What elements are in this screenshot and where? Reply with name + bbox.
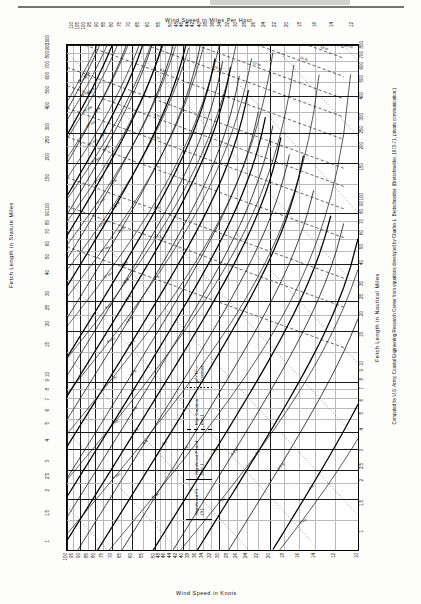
left-axis-tick-label: 100 bbox=[46, 203, 51, 210]
top-axis-tick-label: 85 bbox=[102, 22, 107, 27]
left-axis-tick-label: 90 bbox=[46, 211, 51, 216]
curve-value-label: 20 hr bbox=[344, 45, 354, 50]
top-axis-tick-label: 30 bbox=[234, 22, 239, 27]
left-axis-tick-label: 300 bbox=[46, 123, 51, 130]
bottom-axis-tick-label: 16 bbox=[296, 553, 301, 558]
top-axis-tick-label: 95 bbox=[88, 22, 93, 27]
left-axis-tick-label: 2.5 bbox=[46, 473, 51, 479]
top-axis-tick-label: 90 bbox=[95, 22, 100, 27]
left-axis-tick-label: 600 bbox=[46, 72, 51, 79]
top-axis-tick-label: 38 bbox=[204, 22, 209, 27]
left-axis-tick-label: 2 bbox=[46, 489, 51, 491]
bottom-axis-tick-label: 65 bbox=[118, 553, 123, 558]
bottom-axis-tick-label: 100 bbox=[64, 553, 69, 560]
right-axis-tick-label: 500 bbox=[360, 75, 365, 82]
bottom-axis-tick-label: 18 bbox=[281, 553, 286, 558]
bottom-axis-tick-label: 26 bbox=[234, 553, 239, 558]
top-axis-tick-label: 36 bbox=[211, 22, 216, 27]
bottom-axis-tick-label: 22 bbox=[255, 553, 260, 558]
right-axis-tick-label: 80 bbox=[360, 209, 365, 214]
top-axis-tick-label: 12 bbox=[350, 22, 355, 27]
left-axis-title: Fetch Length in Statute Miles bbox=[8, 148, 14, 288]
curve-value-label: 16 ft bbox=[124, 294, 133, 303]
left-axis-tick-label: 5 bbox=[46, 422, 51, 424]
figure-page: Wind Speed in Miles Per Hour Wind Speed … bbox=[0, 0, 421, 604]
bottom-axis-tick-label: 44 bbox=[168, 553, 173, 558]
right-axis-tick-label: 400 bbox=[360, 92, 365, 99]
bottom-axis-tick-label: 28 bbox=[225, 553, 230, 558]
bottom-axis-tick-label: 75 bbox=[100, 553, 105, 558]
curve-value-label: 15 hr bbox=[299, 56, 309, 62]
left-axis-tick-label: 700 bbox=[46, 61, 51, 68]
right-axis-tick-label: 600 bbox=[360, 62, 365, 69]
right-axis-tick-label: 25 bbox=[360, 294, 365, 299]
top-axis-tick-label: 75 bbox=[118, 22, 123, 27]
bottom-axis-tick-label: 24 bbox=[244, 553, 249, 558]
right-axis-tick-label: 40 bbox=[360, 260, 365, 265]
bottom-axis-tick-label: 42 bbox=[174, 553, 179, 558]
curve-value-label: 7 sec bbox=[109, 374, 119, 382]
left-axis-tick-label: 60 bbox=[46, 241, 51, 246]
left-axis-tick-label: 7 bbox=[46, 398, 51, 400]
left-axis-tick-label: 150 bbox=[46, 174, 51, 181]
top-axis-tick-label: 46 bbox=[180, 22, 185, 27]
left-axis-tick-label: 200 bbox=[46, 153, 51, 160]
bottom-axis-tick-label: 34 bbox=[200, 553, 205, 558]
bottom-axis-tick-label: 12 bbox=[332, 553, 337, 558]
top-axis-tick-label: 20 bbox=[285, 22, 290, 27]
gt2-f2-constant-curve bbox=[67, 507, 109, 550]
bottom-axis-tick-label: 70 bbox=[109, 553, 114, 558]
left-axis-tick-label: 9 bbox=[46, 379, 51, 381]
left-axis-tick-label: 30 bbox=[46, 291, 51, 296]
left-axis-tick-label: 4 bbox=[46, 439, 51, 441]
minimum-duration-curve bbox=[67, 86, 344, 187]
left-axis-tick-label: 8 bbox=[46, 388, 51, 390]
left-axis-tick-label: 500 bbox=[46, 86, 51, 93]
legend: Significant Ht. (ft.)Significant Period … bbox=[186, 352, 296, 522]
right-axis-tick-label: 70 bbox=[360, 219, 365, 224]
grid-line-vertical bbox=[358, 45, 359, 550]
curve-value-label: 8 ft bbox=[131, 405, 138, 412]
legend-item-label: Min. Duration (hrs.) bbox=[194, 392, 204, 425]
curve-value-label: 14 ft bbox=[125, 315, 134, 324]
right-axis-tick-label: 8 bbox=[360, 378, 365, 380]
legend-swatch-dash bbox=[186, 428, 212, 432]
right-axis-tick-label: 200 bbox=[360, 142, 365, 149]
bottom-axis-tick-label: 20 bbox=[267, 553, 272, 558]
curve-value-label: 5 sec bbox=[112, 472, 122, 480]
curve-value-label: 5 ft bbox=[161, 439, 168, 446]
left-axis-tick-label: 900 bbox=[46, 43, 51, 50]
top-axis-tick-label: 105 bbox=[76, 22, 81, 29]
top-axis-tick-label: 32 bbox=[226, 22, 231, 27]
legend-item-label: Significant Ht. (ft.) bbox=[194, 484, 204, 514]
right-axis-tick-label: 10 bbox=[360, 361, 365, 366]
curve-value-label: 9 sec bbox=[104, 302, 114, 310]
right-axis-tick-label: 30 bbox=[360, 281, 365, 286]
top-axis-tick-label: 40 bbox=[198, 22, 203, 27]
curve-value-label: 2 sec bbox=[298, 517, 308, 525]
bottom-axis-tick-label: 30 bbox=[216, 553, 221, 558]
right-axis-tick-label: 2.5 bbox=[360, 463, 365, 469]
curve-value-label: 12 hr bbox=[252, 61, 262, 67]
left-axis-tick-label: 400 bbox=[46, 102, 51, 109]
curve-value-label: 20 ft bbox=[121, 260, 130, 269]
right-axis-tick-label: 2 bbox=[360, 479, 365, 481]
bottom-axis-tick-label: 90 bbox=[77, 553, 82, 558]
curve-value-label: 20 sec bbox=[77, 75, 88, 84]
gt2-f2-constant-curve bbox=[67, 52, 358, 363]
minimum-duration-curve bbox=[136, 45, 344, 117]
curve-value-label: 50 ft bbox=[99, 130, 108, 139]
legend-item: Min. Duration (hrs.) bbox=[186, 392, 212, 432]
right-axis-tick-label: 90 bbox=[360, 201, 365, 206]
top-axis-tick-label: 55 bbox=[157, 22, 162, 27]
legend-item-label: Significant Period (sec.) bbox=[194, 434, 204, 474]
bottom-axis-tick-label: 14 bbox=[312, 553, 317, 558]
right-axis-title: Fetch Length in Nautical Miles bbox=[374, 222, 380, 362]
right-axis-tick-label: 7 bbox=[360, 387, 365, 389]
scan-artifact-smudge bbox=[210, 0, 350, 5]
top-axis-tick-label: 18 bbox=[298, 22, 303, 27]
curve-value-label: 15 sec bbox=[90, 156, 101, 165]
significant-period-curve bbox=[67, 48, 189, 270]
top-axis-tick-label: 100 bbox=[82, 22, 87, 29]
bottom-axis-tick-label: 40 bbox=[180, 553, 185, 558]
